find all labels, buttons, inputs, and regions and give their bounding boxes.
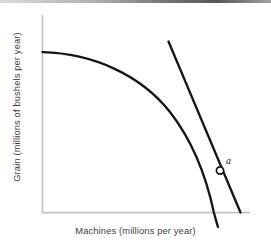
figure-container: Grain (millions of bushels per year) Mac… [0, 0, 271, 246]
point-a-label: a [226, 155, 231, 166]
x-axis-label: Machines (millions per year) [0, 226, 271, 236]
point-a-marker [216, 167, 223, 174]
y-axis-label-container: Grain (millions of bushels per year) [0, 0, 34, 214]
y-axis-label: Grain (millions of bushels per year) [12, 32, 22, 182]
plot-area [0, 0, 271, 246]
ppf-curve [43, 52, 219, 227]
